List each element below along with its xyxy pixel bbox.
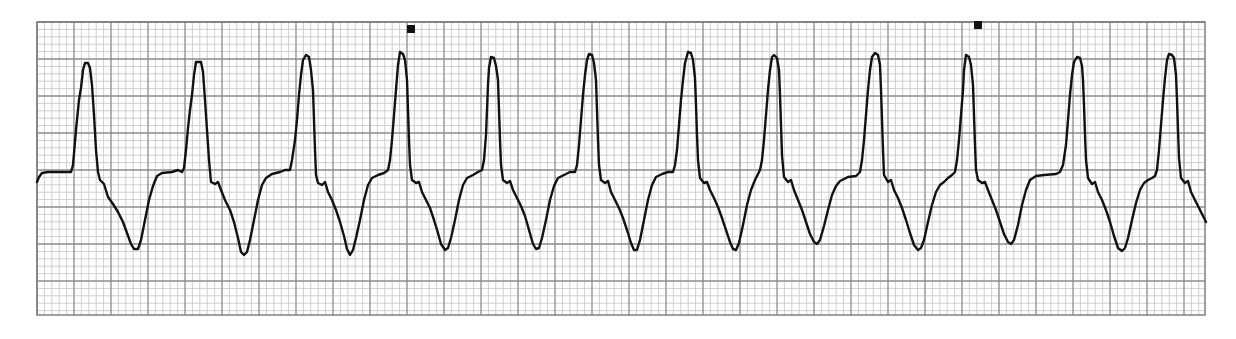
event-marker-1: [407, 25, 415, 33]
grid-border: [37, 22, 1205, 315]
grid-minor-lines: [37, 22, 1205, 315]
ecg-strip: [0, 0, 1236, 339]
event-marker-2: [974, 21, 982, 29]
grid-major-lines: [37, 22, 1205, 315]
